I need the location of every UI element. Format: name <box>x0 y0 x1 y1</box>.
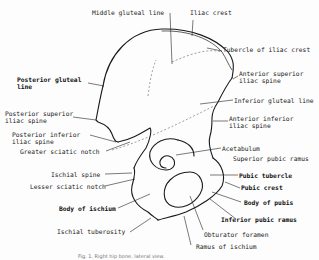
label-obturator-foramen: Obturator foramen <box>204 231 268 238</box>
label-tubercle-of-iliac-crest: Tubercle of iliac crest <box>223 46 310 53</box>
label-line-1: Posterior superior <box>5 110 73 117</box>
label-anterior-inferior-iliac-spine: Anterior inferior iliac spine <box>229 115 293 129</box>
label-line-1: Anterior inferior <box>229 115 293 122</box>
label-pubic-crest: Pubic crest <box>241 184 283 191</box>
label-ramus-of-ischium: Ramus of ischium <box>196 243 257 250</box>
label-greater-sciatic-notch: Greater sciatic notch <box>20 148 100 155</box>
label-iliac-crest: Iliac crest <box>190 9 232 16</box>
label-posterior-inferior-iliac-spine: Posterior inferior iliac spine <box>12 131 80 145</box>
figure-caption: Fig. 1. Right hip bone, lateral view. <box>78 253 165 259</box>
label-posterior-superior-iliac-spine: Posterior superior iliac spine <box>5 110 73 124</box>
label-inferior-pubic-ramus: Inferior pubic ramus <box>221 216 297 223</box>
hip-bone-diagram: Middle gluteal line Iliac crest Tubercle… <box>0 0 319 260</box>
label-line-2: iliac spine <box>239 77 281 84</box>
label-pubic-tubercle: Pubic tubercle <box>239 172 292 179</box>
label-inferior-gluteal-line: Inferior gluteal line <box>234 97 314 104</box>
label-line-2: iliac spine <box>5 117 47 124</box>
label-lesser-sciatic-notch: Lesser sciatic notch <box>30 183 106 190</box>
label-line-2: iliac spine <box>12 138 54 145</box>
label-line-1: Anterior superior <box>239 70 303 77</box>
label-line-2: iliac spine <box>229 122 271 129</box>
label-middle-gluteal-line: Middle gluteal line <box>92 9 164 16</box>
label-posterior-gluteal-line: Posterior gluteal line <box>17 76 81 90</box>
label-ischial-spine: Ischial spine <box>51 171 100 178</box>
label-ischial-tuberosity: Ischial tuberosity <box>57 228 125 235</box>
label-line-2: line <box>17 83 32 90</box>
label-anterior-superior-iliac-spine: Anterior superior iliac spine <box>239 70 303 84</box>
label-line-1: Posterior inferior <box>12 131 80 138</box>
label-superior-pubic-ramus: Superior pubic ramus <box>233 155 309 162</box>
label-body-of-pubis: Body of pubis <box>244 199 293 206</box>
label-body-of-ischium: Body of ischium <box>59 205 116 212</box>
label-line-1: Posterior gluteal <box>17 76 81 83</box>
label-acetabulum: Acetabulum <box>222 145 260 152</box>
